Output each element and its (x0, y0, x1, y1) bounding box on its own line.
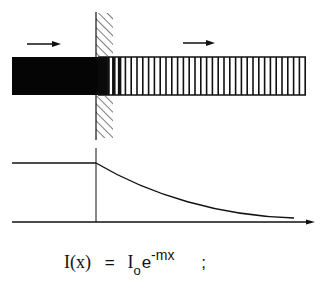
x-axis-arrow-icon (306, 220, 315, 225)
transmitted-arrow-icon (183, 40, 215, 46)
transmitted-beam (98, 57, 306, 95)
incident-arrow-icon (27, 41, 61, 47)
attenuation-formula: I(x) = Ioe-mx ; (64, 252, 206, 273)
formula-exponent: -mx (151, 247, 174, 263)
formula-exp-base: e (142, 253, 151, 273)
formula-terminator: ; (201, 253, 206, 273)
incident-beam (12, 57, 98, 95)
formula-subscript: o (133, 263, 140, 278)
formula-equals: = (105, 253, 115, 273)
formula-lhs: I(x) (64, 252, 91, 273)
intensity-graph (12, 148, 315, 225)
